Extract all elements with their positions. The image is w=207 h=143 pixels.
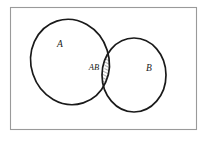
venn-diagram-figure: A B AB <box>0 0 207 143</box>
venn-diagram-canvas: A B AB <box>0 0 207 143</box>
intersection-label-ab: AB <box>88 62 99 72</box>
set-b-label: B <box>146 63 152 73</box>
set-a-label: A <box>56 39 63 49</box>
